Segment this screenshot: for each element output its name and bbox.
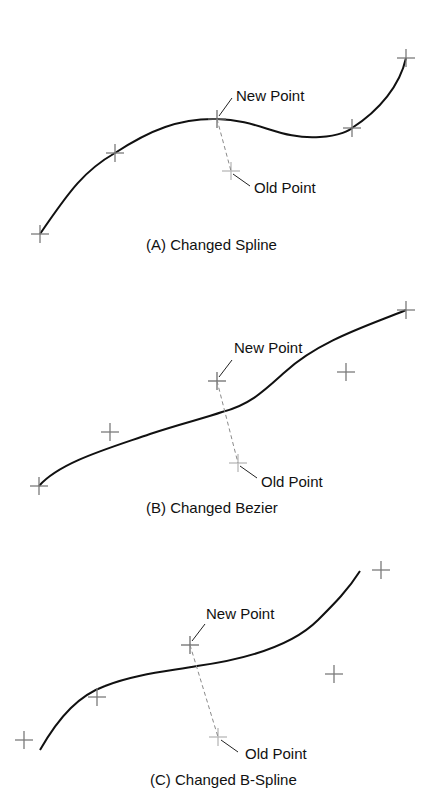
control-point-marker — [397, 301, 415, 319]
control-point-marker — [397, 49, 415, 67]
new-point-leader — [219, 360, 232, 377]
spline-diagram: New Point Old Point (A) Changed Spline N… — [0, 0, 436, 800]
old-point-leader — [221, 740, 238, 752]
bspline-curve — [40, 571, 360, 750]
old-point-leader — [233, 174, 250, 186]
panel-a: New Point Old Point (A) Changed Spline — [31, 49, 415, 253]
control-point-marker — [343, 119, 361, 137]
spline-curve — [40, 58, 406, 234]
control-point-marker — [31, 225, 49, 243]
panel-caption: (A) Changed Spline — [146, 236, 277, 253]
new-point-leader — [192, 624, 205, 641]
control-point-marker — [372, 561, 390, 579]
new-point-label: New Point — [236, 87, 305, 104]
new-point-label: New Point — [234, 339, 303, 356]
panel-caption: (C) Changed B-Spline — [150, 771, 297, 788]
old-point-label: Old Point — [245, 745, 308, 762]
old-point-label: Old Point — [254, 179, 317, 196]
displacement-line — [217, 119, 231, 171]
displacement-line — [217, 381, 238, 463]
control-point-marker — [15, 731, 33, 749]
panel-c: New Point Old Point (C) Changed B-Spline — [15, 561, 390, 788]
control-point-marker — [101, 423, 119, 441]
control-point-marker — [337, 363, 355, 381]
panel-caption: (B) Changed Bezier — [146, 499, 278, 516]
control-point-marker — [106, 144, 124, 162]
old-point-marker — [209, 728, 227, 746]
old-point-leader — [240, 466, 257, 478]
old-point-label: Old Point — [261, 473, 324, 490]
bezier-curve — [39, 310, 406, 486]
control-point-marker — [325, 665, 343, 683]
panel-b: New Point Old Point (B) Changed Bezier — [30, 301, 415, 516]
control-point-marker — [88, 688, 106, 706]
displacement-line — [190, 645, 218, 737]
new-point-label: New Point — [206, 605, 275, 622]
new-point-leader — [219, 98, 232, 116]
